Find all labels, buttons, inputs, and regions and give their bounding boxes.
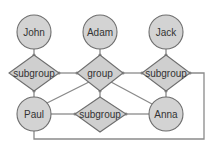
node-label: Anna [154, 109, 178, 120]
node-john[interactable]: John [17, 15, 51, 49]
node-bottom-subgroup[interactable]: subgroup [75, 97, 126, 132]
node-anna[interactable]: Anna [149, 97, 183, 131]
node-paul[interactable]: Paul [17, 97, 51, 131]
node-label: subgroup [145, 68, 187, 79]
node-label: subgroup [13, 68, 55, 79]
node-label: John [23, 27, 45, 38]
edge-group-anna [111, 82, 152, 104]
node-center-group[interactable]: group [77, 55, 123, 91]
node-label: subgroup [79, 109, 121, 120]
node-left-subgroup[interactable]: subgroup [9, 55, 59, 91]
node-label: Adam [87, 27, 113, 38]
graph-diagram: John Adam Jack Paul Anna subgroup group … [0, 0, 214, 146]
node-label: group [87, 68, 113, 79]
node-adam[interactable]: Adam [83, 15, 117, 49]
node-label: Paul [24, 109, 44, 120]
edge-paul-group [47, 82, 89, 103]
node-label: Jack [156, 27, 178, 38]
node-right-subgroup[interactable]: subgroup [142, 55, 190, 91]
node-jack[interactable]: Jack [149, 15, 183, 49]
